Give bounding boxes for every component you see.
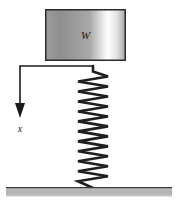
weight-block-label: W <box>81 29 91 41</box>
spring-zigzag <box>78 66 108 188</box>
arrow-stem <box>20 66 93 103</box>
ground-surface <box>6 188 172 197</box>
weight-block: W <box>46 10 126 61</box>
arrow-head-icon <box>15 103 25 118</box>
spring-coil <box>78 66 108 188</box>
displacement-label: x <box>17 123 23 134</box>
figure-canvas: W x <box>0 0 180 206</box>
ground-body <box>6 188 172 197</box>
physics-figure: W x <box>0 0 180 206</box>
